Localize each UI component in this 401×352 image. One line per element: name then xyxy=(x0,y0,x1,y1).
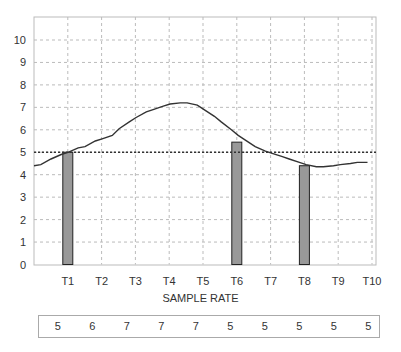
x-tick-label: T8 xyxy=(298,275,311,287)
sample-rate-table: 5677755555 xyxy=(38,315,380,338)
sample-bar xyxy=(232,142,242,264)
y-tick-label: 8 xyxy=(20,79,26,91)
x-tick-label: T3 xyxy=(129,275,142,287)
sample-rate-cell: 5 xyxy=(358,320,378,332)
grid-lines xyxy=(34,17,376,265)
sample-rate-cell: 5 xyxy=(48,320,68,332)
x-tick-label: T9 xyxy=(332,275,345,287)
sample-rate-cell: 5 xyxy=(324,320,344,332)
x-tick-label: T1 xyxy=(61,275,74,287)
y-axis-ticks: 012345678910 xyxy=(14,34,26,271)
sample-rate-cell: 6 xyxy=(82,320,102,332)
y-tick-label: 1 xyxy=(20,236,26,248)
sample-rate-cell: 5 xyxy=(220,320,240,332)
x-tick-label: T2 xyxy=(95,275,108,287)
y-tick-label: 3 xyxy=(20,191,26,203)
y-tick-label: 9 xyxy=(20,56,26,68)
x-axis-title: SAMPLE RATE xyxy=(0,292,401,304)
y-tick-label: 6 xyxy=(20,124,26,136)
sample-bars xyxy=(63,142,310,264)
x-tick-label: T4 xyxy=(163,275,176,287)
y-tick-label: 0 xyxy=(20,259,26,271)
sample-rate-cell: 5 xyxy=(289,320,309,332)
sample-bar xyxy=(63,152,73,264)
x-tick-label: T10 xyxy=(363,275,382,287)
plot-frame xyxy=(34,17,376,265)
sample-rate-cell: 5 xyxy=(255,320,275,332)
y-tick-label: 5 xyxy=(20,146,26,158)
x-tick-label: T5 xyxy=(197,275,210,287)
signal-line xyxy=(34,103,368,167)
x-axis-ticks: T1T2T3T4T5T6T7T8T9T10 xyxy=(61,275,381,287)
sample-rate-cell: 7 xyxy=(186,320,206,332)
sample-rate-cell: 7 xyxy=(117,320,137,332)
y-tick-label: 4 xyxy=(20,169,26,181)
x-tick-label: T6 xyxy=(230,275,243,287)
chart-plot: 012345678910 T1T2T3T4T5T6T7T8T9T10 xyxy=(0,0,401,310)
y-tick-label: 2 xyxy=(20,214,26,226)
sample-rate-cell: 7 xyxy=(151,320,171,332)
x-tick-label: T7 xyxy=(264,275,277,287)
sample-bar xyxy=(299,166,309,265)
y-tick-label: 7 xyxy=(20,101,26,113)
y-tick-label: 10 xyxy=(14,34,26,46)
